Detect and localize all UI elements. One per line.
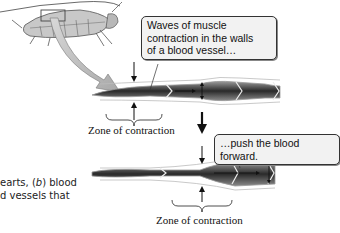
caption-line-2: d vessels that [0,189,77,202]
caption-line-1: earts, (b) blood [0,176,77,189]
vessel-top [92,77,280,104]
caption-fragment: earts, (b) blood d vessels that [0,176,77,202]
callout-line-2: contraction in the walls [147,32,271,45]
sequence-arrow-icon [197,112,207,134]
zone-of-contraction-label-bottom: Zone of contraction [156,214,243,226]
callout-line-3: of a blood vessel… [147,44,271,57]
callout-line-1: Waves of muscle [147,19,271,32]
callout-push-blood: …push the blood forward. [214,134,340,165]
callout-text: …push the blood forward. [220,137,299,162]
zone-of-contraction-label-top: Zone of contraction [88,124,175,136]
callout-muscle-contraction: Waves of muscle contraction in the walls… [141,16,277,60]
